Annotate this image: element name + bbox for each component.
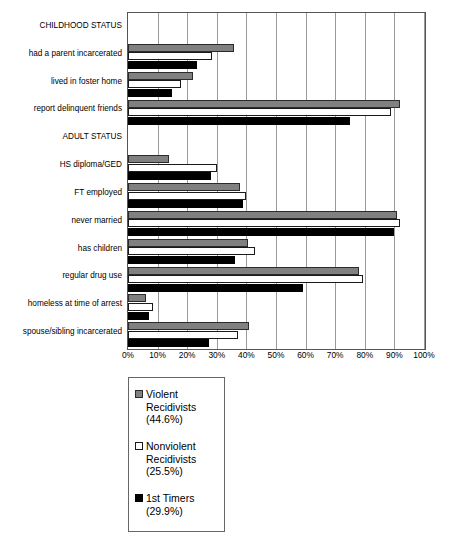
bar [128,284,303,292]
legend-entry: 1st Timers (29.9%) [135,492,194,517]
category-label: has children [0,244,122,253]
legend-label: Nonviolent Recidivists (25.5%) [146,440,196,478]
bar [128,164,217,172]
category-label: homeless at time of arrest [0,299,122,308]
bar [128,80,181,88]
bar [128,294,146,302]
category-label: HS diploma/GED [0,160,122,169]
chart-legend: Violent Recidivists (44.6%)Nonviolent Re… [128,377,225,532]
bar [128,72,193,80]
category-label: lived in foster home [0,77,122,86]
bar [128,312,149,320]
legend-swatch-icon [135,390,143,398]
bar [128,100,400,108]
bar [128,211,397,219]
x-axis-tick-labels: 0%10%20%30%40%50%60%70%80%90%100% [0,350,451,364]
category-axis-labels: CHILDHOOD STATUShad a parent incarcerate… [0,12,122,348]
legend-label: Violent Recidivists (44.6%) [146,388,196,426]
bar [128,228,394,236]
bar [128,331,238,339]
legend-swatch-icon [135,442,143,450]
bar [128,239,248,247]
bar [128,339,209,347]
bar [128,256,235,264]
bar [128,247,255,255]
category-label: spouse/sibling incarcerated [0,327,122,336]
category-label: FT employed [0,188,122,197]
bar [128,117,350,125]
x-tick-label: 100% [407,350,441,361]
bar [128,61,197,69]
bar [128,155,169,163]
bar [128,44,234,52]
bar [128,172,211,180]
category-label: had a parent incarcerated [0,49,122,58]
bar [128,89,172,97]
bar [128,108,391,116]
bars-layer [128,13,424,347]
category-label: regular drug use [0,271,122,280]
bar [128,183,240,191]
bar [128,267,359,275]
legend-swatch-icon [135,494,143,502]
bar [128,275,363,283]
bar [128,303,153,311]
category-label: CHILDHOOD STATUS [0,21,122,30]
legend-entry: Violent Recidivists (44.6%) [135,388,196,426]
category-label: ADULT STATUS [0,132,122,141]
chart-title [0,0,451,1]
gridline [424,13,425,349]
legend-entry: Nonviolent Recidivists (25.5%) [135,440,196,478]
legend-label: 1st Timers (29.9%) [146,492,194,517]
bar-chart: CHILDHOOD STATUShad a parent incarcerate… [0,0,451,545]
category-label: report delinquent friends [0,104,122,113]
bar [128,200,243,208]
bar [128,52,212,60]
bar [128,192,246,200]
category-label: never married [0,216,122,225]
bar [128,219,400,227]
bar [128,322,249,330]
